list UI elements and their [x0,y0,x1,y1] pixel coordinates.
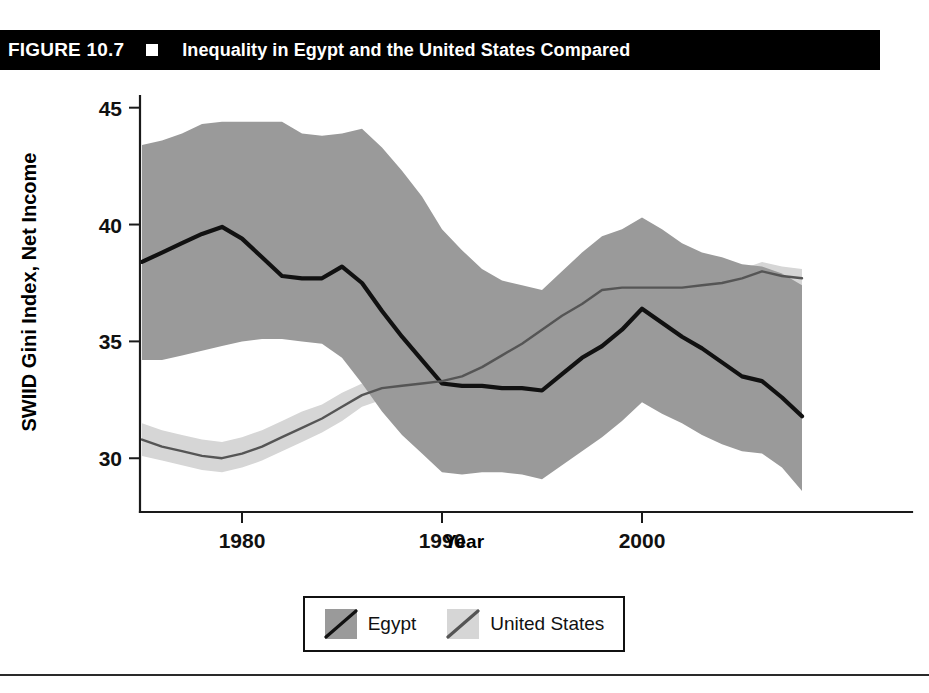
figure-title: Inequality in Egypt and the United State… [182,40,630,61]
figure-header-bar: FIGURE 10.7 Inequality in Egypt and the … [0,30,880,70]
line-chart-svg: 30354045198019902000 Year SWIID Gini Ind… [0,70,929,590]
legend-swatch-egypt-icon [324,608,358,640]
footer-divider [0,674,929,676]
y-tick-label: 35 [99,330,123,353]
legend-item-united-states: United States [446,608,604,640]
legend-label-egypt: Egypt [368,613,417,635]
y-tick-label: 30 [99,447,122,470]
figure-page: FIGURE 10.7 Inequality in Egypt and the … [0,0,929,693]
y-tick-label: 40 [99,214,122,237]
legend-swatch-united-states-icon [446,608,480,640]
square-bullet-icon [146,44,158,56]
chart-plot-area: 30354045198019902000 Year SWIID Gini Ind… [0,70,929,590]
legend-item-egypt: Egypt [324,608,417,640]
legend-label-united-states: United States [490,613,604,635]
confidence-bands-group [142,122,802,491]
chart-legend: Egypt United States [303,596,625,652]
x-tick-label: 2000 [619,529,666,552]
y-tick-label: 45 [99,97,123,120]
confidence-band-egypt [142,122,802,491]
y-axis-title: SWIID Gini Index, Net Income [18,153,40,432]
x-axis-title: Year [444,531,485,552]
x-tick-label: 1980 [219,529,266,552]
figure-number: FIGURE 10.7 [8,39,124,61]
